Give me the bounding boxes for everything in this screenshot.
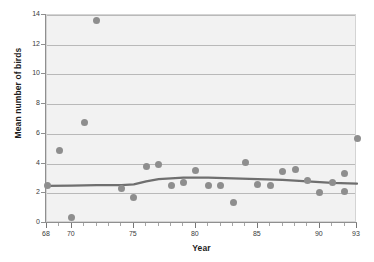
x-axis-tick-major — [133, 223, 134, 228]
gridline — [47, 164, 355, 165]
y-axis-line — [45, 14, 46, 223]
x-axis-tick-label: 90 — [309, 230, 329, 238]
y-axis-tick — [41, 73, 45, 74]
plot-area — [46, 14, 356, 222]
x-axis-tick-minor — [220, 223, 221, 226]
y-axis-tick — [41, 44, 45, 45]
x-axis-tick-label: 85 — [247, 230, 267, 238]
data-point — [155, 161, 162, 168]
gridline — [47, 74, 355, 75]
x-axis-tick-minor — [269, 223, 270, 226]
x-axis-tick-minor — [306, 223, 307, 226]
y-axis-tick-label: 2 — [24, 188, 40, 195]
y-axis-tick-label: 0 — [24, 218, 40, 225]
gridline — [47, 15, 355, 16]
y-axis-tick — [41, 192, 45, 193]
x-axis-tick-label: 93 — [346, 230, 366, 238]
y-axis-tick-label: 14 — [24, 10, 40, 17]
data-point — [267, 182, 274, 189]
data-point — [292, 166, 299, 173]
x-axis-line — [46, 222, 357, 223]
x-axis-tick-minor — [58, 223, 59, 226]
y-axis-tick — [41, 163, 45, 164]
y-axis-tick — [41, 14, 45, 15]
x-axis-tick-major — [257, 223, 258, 228]
y-axis-tick-labels: 02468101214 — [22, 0, 40, 262]
data-point — [230, 199, 237, 206]
data-point — [354, 135, 361, 142]
x-axis-tick-minor — [170, 223, 171, 226]
x-axis-tick-major — [356, 223, 357, 228]
x-axis-tick-minor — [282, 223, 283, 226]
x-axis-tick-label: 70 — [61, 230, 81, 238]
y-axis-tick-label: 6 — [24, 129, 40, 136]
x-axis-title: Year — [46, 243, 357, 253]
gridline — [47, 104, 355, 105]
x-axis-tick-minor — [182, 223, 183, 226]
data-point — [143, 163, 150, 170]
y-axis-tick-label: 12 — [24, 40, 40, 47]
x-axis-tick-minor — [232, 223, 233, 226]
gridline — [47, 193, 355, 194]
data-point — [68, 214, 75, 221]
x-axis-tick-minor — [108, 223, 109, 226]
y-axis-tick — [41, 103, 45, 104]
gridline — [47, 45, 355, 46]
x-axis-tick-minor — [145, 223, 146, 226]
x-axis-tick-label: 75 — [123, 230, 143, 238]
x-axis-tick-minor — [244, 223, 245, 226]
y-axis-tick-label: 4 — [24, 159, 40, 166]
x-axis-tick-minor — [331, 223, 332, 226]
data-point — [81, 119, 88, 126]
y-axis-tick — [41, 133, 45, 134]
y-axis-tick-label: 10 — [24, 69, 40, 76]
x-axis-tick-minor — [83, 223, 84, 226]
trendline — [47, 15, 357, 223]
x-axis-tick-minor — [96, 223, 97, 226]
y-axis-tick-label: 8 — [24, 99, 40, 106]
x-axis-tick-major — [46, 223, 47, 228]
data-point — [329, 179, 336, 186]
x-axis-tick-minor — [294, 223, 295, 226]
data-point — [168, 182, 175, 189]
x-axis-tick-label: 68 — [36, 230, 56, 238]
gridline — [47, 134, 355, 135]
x-axis-tick-minor — [120, 223, 121, 226]
x-axis-tick-major — [71, 223, 72, 228]
scatter-chart: 02468101214 Mean number of birds Year 68… — [0, 0, 374, 262]
x-axis-tick-label: 80 — [185, 230, 205, 238]
data-point — [304, 177, 311, 184]
x-axis-tick-major — [195, 223, 196, 228]
x-axis-tick-minor — [207, 223, 208, 226]
x-axis-tick-minor — [344, 223, 345, 226]
x-axis-tick-minor — [158, 223, 159, 226]
y-axis-tick — [41, 222, 45, 223]
x-axis-tick-major — [319, 223, 320, 228]
y-axis-title: Mean number of birds — [13, 23, 23, 163]
data-point — [180, 179, 187, 186]
